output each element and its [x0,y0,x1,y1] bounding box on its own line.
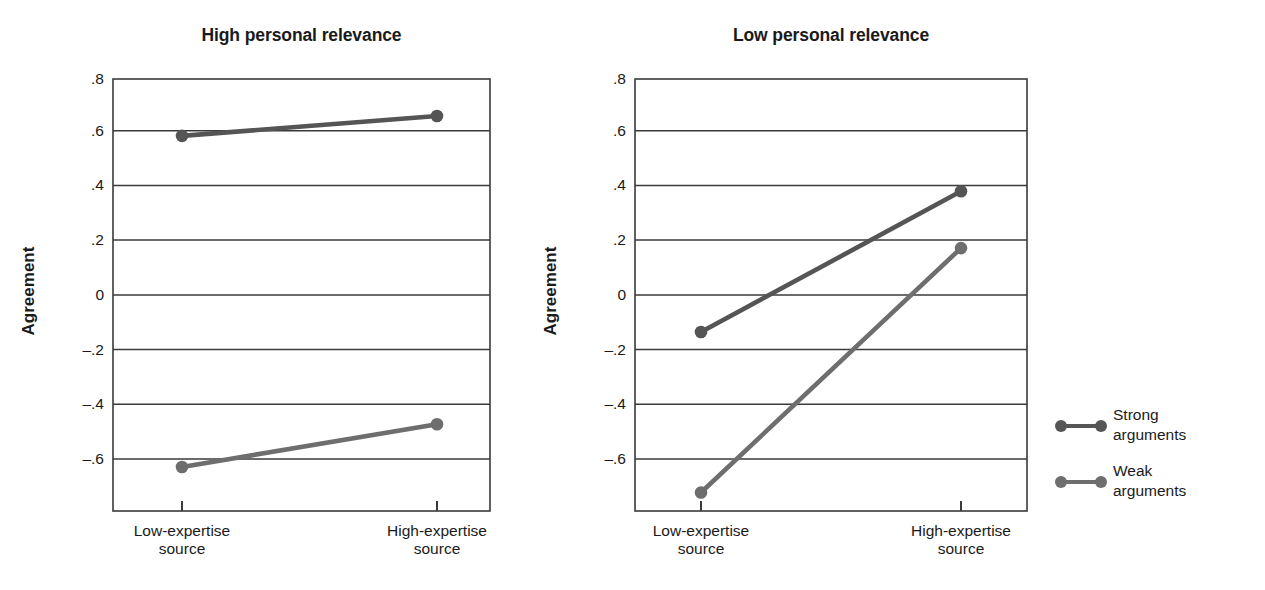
y-tick-label-left-2: .4 [58,177,104,193]
panel-title-right: Low personal relevance [635,25,1027,46]
data-point [695,486,708,499]
legend-dot-icon [1095,476,1107,488]
y-tick-label-left-1: .6 [58,123,104,139]
y-tick-label-right-2: .4 [580,177,626,193]
x-tick-label-right-1-line1: High-expertise [879,522,1043,540]
legend-item-weak-arguments: Weak arguments [1055,461,1186,501]
data-point [955,242,968,255]
y-tick-label-left-7: –.6 [52,451,104,467]
y-tick-label-left-6: –.4 [52,396,104,412]
xticks-right [701,501,961,511]
x-tick-label-right-0: Low-expertise source [619,522,783,558]
y-axis-label-right: Agreement [541,236,561,346]
data-point [695,326,708,339]
x-tick-label-left-0: Low-expertise source [100,522,264,558]
panel-low-personal-relevance [635,79,1027,511]
data-point [176,461,189,474]
x-tick-label-right-0-line1: Low-expertise [619,522,783,540]
data-point [955,185,968,198]
gridlines-left [113,131,490,459]
data-point [431,110,444,123]
legend-label-strong: Strong arguments [1107,405,1186,445]
x-tick-label-right-0-line2: source [619,540,783,558]
series-right-weak [695,242,968,499]
x-tick-label-left-1-line2: source [355,540,519,558]
legend-dot-icon [1095,420,1107,432]
legend-marker-weak [1055,461,1107,483]
x-tick-label-left-1: High-expertise source [355,522,519,558]
legend-label-weak-line2: arguments [1113,481,1186,501]
x-tick-label-right-1: High-expertise source [879,522,1043,558]
x-tick-label-right-1-line2: source [879,540,1043,558]
y-tick-label-right-4: 0 [580,287,626,303]
x-tick-label-left-0-line1: Low-expertise [100,522,264,540]
data-point [176,130,189,143]
x-tick-label-left-0-line2: source [100,540,264,558]
legend-dot-icon [1055,476,1067,488]
y-tick-label-right-3: .2 [580,232,626,248]
legend-label-strong-line2: arguments [1113,425,1186,445]
legend-item-strong-arguments: Strong arguments [1055,405,1186,445]
series-left-weak [176,418,444,473]
data-point [431,418,444,431]
legend-marker-strong [1055,405,1107,427]
series-left-strong [176,110,444,142]
figure: High personal relevance Low personal rel… [0,0,1265,590]
legend-label-weak-line1: Weak [1113,461,1186,481]
y-tick-label-right-5: –.2 [574,342,626,358]
y-tick-label-right-6: –.4 [574,396,626,412]
legend-label-strong-line1: Strong [1113,405,1186,425]
x-tick-label-left-1-line1: High-expertise [355,522,519,540]
series-right-strong [695,185,968,338]
y-tick-label-left-0: .8 [58,71,104,87]
y-tick-label-left-4: 0 [58,287,104,303]
y-tick-label-right-1: .6 [580,123,626,139]
y-tick-label-left-3: .2 [58,232,104,248]
chart-canvas [0,0,1265,590]
y-tick-label-left-5: –.2 [52,342,104,358]
legend-label-weak: Weak arguments [1107,461,1186,501]
gridlines-right [635,131,1027,459]
panel-high-personal-relevance [113,79,490,511]
panel-title-left: High personal relevance [113,25,490,46]
legend-dot-icon [1055,420,1067,432]
xticks-left [182,501,437,511]
y-tick-label-right-0: .8 [580,71,626,87]
y-axis-label-left: Agreement [19,236,39,346]
y-tick-label-right-7: –.6 [574,451,626,467]
